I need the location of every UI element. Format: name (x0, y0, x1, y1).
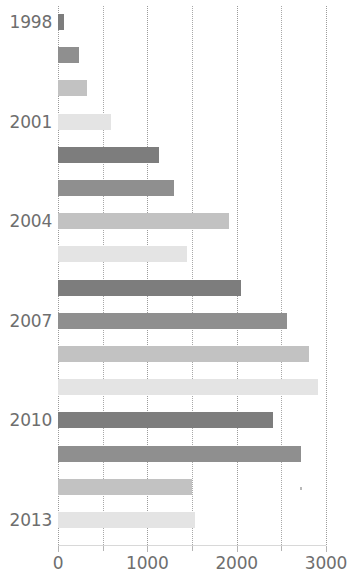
x-tick-2500 (281, 546, 282, 551)
bar-2004 (58, 213, 229, 229)
y-label-2001: 2001 (0, 112, 52, 132)
bar-2009 (58, 379, 318, 395)
plot-area (58, 6, 326, 545)
bar-2007 (58, 313, 287, 329)
bar-2002 (58, 147, 159, 163)
bar-2001 (58, 114, 111, 130)
gridline-500 (103, 6, 105, 545)
bar-2013 (58, 512, 195, 528)
bar-2005 (58, 246, 187, 262)
y-label-2007: 2007 (0, 311, 52, 331)
bar-2008 (58, 346, 309, 362)
y-label-2004: 2004 (0, 211, 52, 231)
bar-2006 (58, 280, 241, 296)
image-artifact-speck (300, 487, 302, 490)
bar-2012 (58, 479, 192, 495)
bar-1999 (58, 47, 79, 63)
x-tick-500 (103, 546, 104, 551)
bar-2000 (58, 80, 87, 96)
bar-1998 (58, 14, 64, 30)
y-label-1998: 1998 (0, 12, 52, 32)
x-tick-label-1000: 1000 (126, 553, 168, 573)
y-label-2013: 2013 (0, 510, 52, 530)
x-tick-1000 (147, 546, 148, 552)
gridline-3000 (326, 6, 328, 545)
gridline-2000 (237, 6, 239, 545)
x-tick-2000 (237, 546, 238, 552)
x-tick-label-3000: 3000 (305, 553, 347, 573)
x-tick-label-2000: 2000 (215, 553, 257, 573)
gridline-2500 (281, 6, 283, 545)
gridline-1000 (147, 6, 149, 545)
x-tick-0 (58, 546, 59, 552)
y-label-2010: 2010 (0, 410, 52, 430)
bar-2010 (58, 412, 273, 428)
bar-chart: 0100020003000 199820012004200720102013 (0, 0, 352, 585)
bar-2011 (58, 446, 301, 462)
x-tick-3000 (326, 546, 327, 552)
x-tick-label-0: 0 (53, 553, 64, 573)
gridline-1500 (192, 6, 194, 545)
x-tick-1500 (192, 546, 193, 551)
bar-2003 (58, 180, 174, 196)
